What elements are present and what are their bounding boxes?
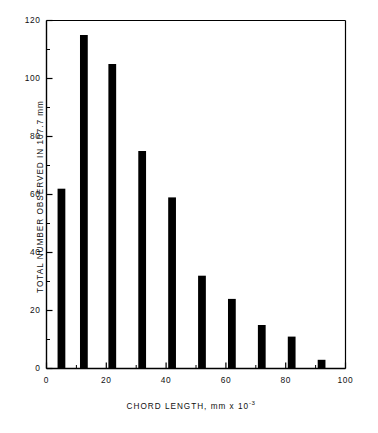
x-tick-label-20: 20 [93, 375, 119, 385]
bar-12.5 [80, 35, 88, 369]
bars-group [58, 35, 326, 369]
bar-82 [288, 337, 296, 369]
ticks-group [47, 21, 346, 369]
y-tick-label-100: 100 [15, 73, 41, 83]
x-tick-label-60: 60 [213, 375, 239, 385]
bar-62 [228, 299, 236, 369]
bar-32 [138, 151, 146, 369]
y-tick-label-0: 0 [15, 363, 41, 373]
y-tick-label-20: 20 [15, 305, 41, 315]
bar-5 [58, 189, 66, 369]
chart-figure: TOTAL NUMBER OBSERVED IN 107.7 mm CHORD … [0, 0, 378, 433]
bar-92 [318, 360, 326, 369]
bar-52 [198, 276, 206, 369]
x-tick-label-0: 0 [34, 375, 60, 385]
axes-group [47, 21, 346, 369]
bar-22 [108, 64, 116, 369]
y-tick-label-120: 120 [15, 15, 41, 25]
plot-area [0, 0, 378, 433]
x-tick-label-100: 100 [333, 375, 359, 385]
x-tick-label-80: 80 [273, 375, 299, 385]
x-tick-label-40: 40 [153, 375, 179, 385]
y-tick-label-60: 60 [15, 189, 41, 199]
y-tick-label-80: 80 [15, 131, 41, 141]
bar-72 [258, 325, 266, 369]
y-tick-label-40: 40 [15, 247, 41, 257]
bar-42 [168, 197, 176, 368]
